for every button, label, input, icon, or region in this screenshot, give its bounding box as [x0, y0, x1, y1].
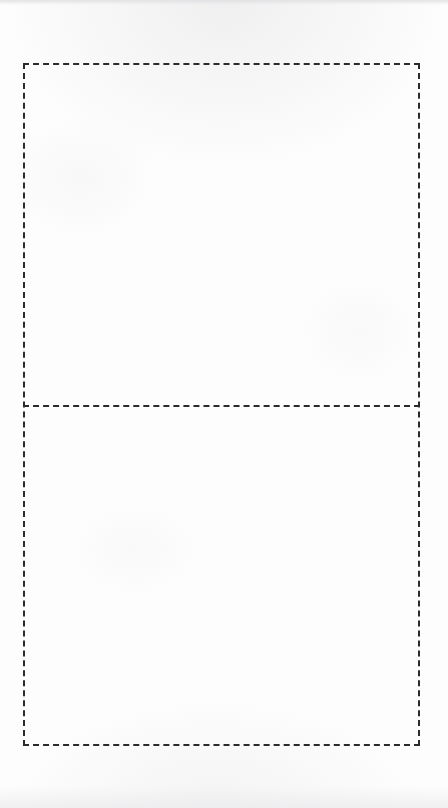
- table-row[interactable]: [23, 63, 420, 405]
- two-cell-dashed-table: [23, 63, 420, 746]
- scan-edge-bottom: [0, 786, 448, 808]
- upper-cell-text[interactable]: [23, 63, 420, 405]
- table-row[interactable]: [23, 405, 420, 747]
- lower-cell-text[interactable]: [23, 405, 420, 747]
- scan-edge-top: [0, 0, 448, 5]
- page-canvas: [0, 0, 448, 808]
